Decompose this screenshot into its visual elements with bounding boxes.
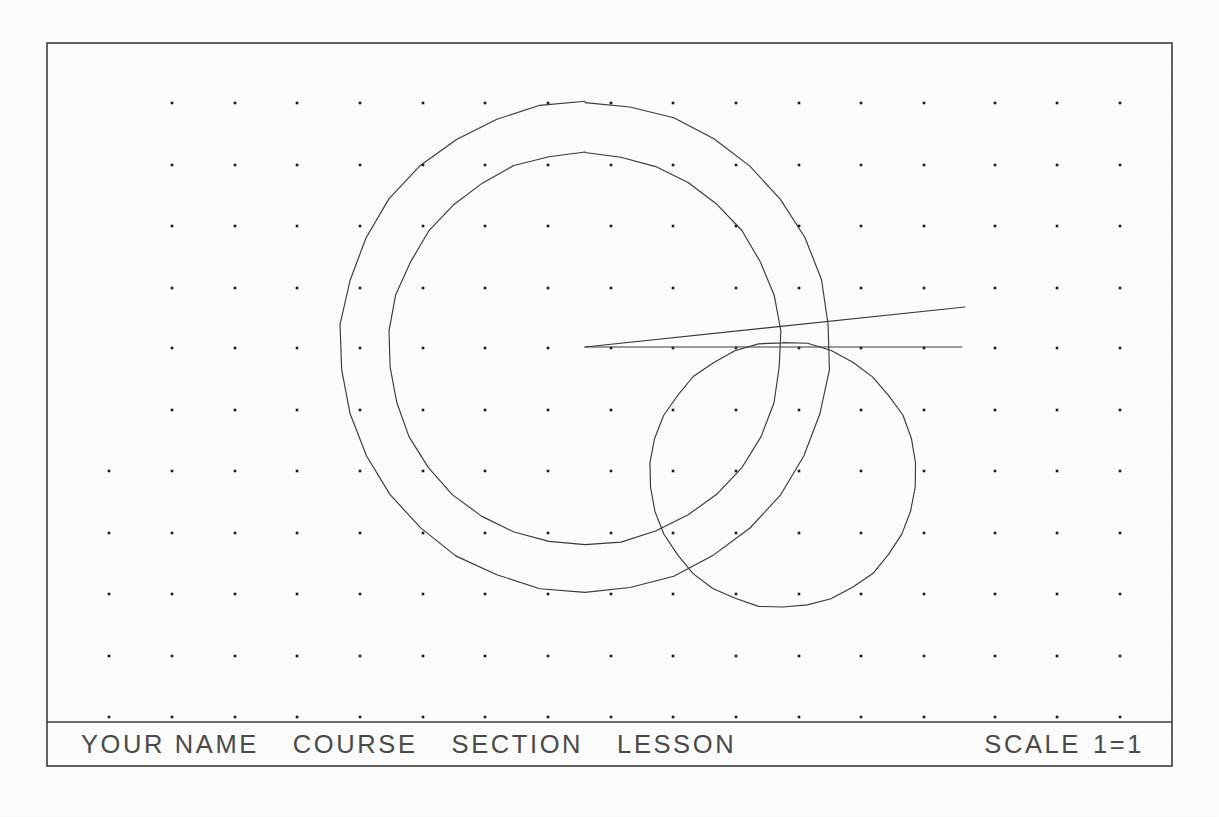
grid-dot bbox=[234, 655, 237, 658]
grid-dot bbox=[1056, 287, 1059, 290]
grid-dot bbox=[234, 225, 237, 228]
grid-dot bbox=[610, 716, 613, 719]
grid-dot bbox=[735, 164, 738, 167]
grid-dot bbox=[484, 470, 487, 473]
grid-dot bbox=[484, 164, 487, 167]
grid-dot bbox=[672, 655, 675, 658]
grid-dot bbox=[860, 470, 863, 473]
grid-dot bbox=[296, 716, 299, 719]
grid-dot bbox=[735, 287, 738, 290]
grid-dot bbox=[484, 593, 487, 596]
grid-dot bbox=[610, 470, 613, 473]
grid-dot bbox=[610, 655, 613, 658]
grid-dot bbox=[296, 532, 299, 535]
grid-dot bbox=[234, 164, 237, 167]
grid-dot bbox=[798, 287, 801, 290]
grid-dot bbox=[234, 102, 237, 105]
grid-dot bbox=[1056, 102, 1059, 105]
grid-dot bbox=[296, 102, 299, 105]
grid-dot bbox=[547, 532, 550, 535]
grid-dot bbox=[1119, 593, 1122, 596]
grid-dot bbox=[798, 532, 801, 535]
grid-dot bbox=[672, 287, 675, 290]
grid-dot bbox=[171, 470, 174, 473]
grid-dot bbox=[994, 347, 997, 350]
grid-dot bbox=[735, 409, 738, 412]
grid-dot bbox=[672, 409, 675, 412]
grid-dot bbox=[860, 287, 863, 290]
grid-dot bbox=[1056, 470, 1059, 473]
grid-dot bbox=[296, 287, 299, 290]
grid-dot bbox=[171, 716, 174, 719]
grid-dot bbox=[735, 716, 738, 719]
grid-dot bbox=[171, 102, 174, 105]
grid-dot bbox=[994, 287, 997, 290]
grid-dot bbox=[923, 164, 926, 167]
grid-dot bbox=[1119, 716, 1122, 719]
grid-dot bbox=[798, 470, 801, 473]
grid-dot bbox=[735, 593, 738, 596]
grid-dot bbox=[547, 164, 550, 167]
grid-dot bbox=[422, 409, 425, 412]
grid-dot bbox=[296, 347, 299, 350]
grid-dot bbox=[994, 225, 997, 228]
grid-dot bbox=[994, 716, 997, 719]
grid-dot bbox=[923, 225, 926, 228]
grid-dot bbox=[923, 716, 926, 719]
grid-dot bbox=[547, 102, 550, 105]
grid-dot bbox=[672, 164, 675, 167]
grid-dot bbox=[484, 716, 487, 719]
grid-dot bbox=[296, 655, 299, 658]
grid-dot bbox=[798, 655, 801, 658]
grid-dot bbox=[860, 409, 863, 412]
grid-dot bbox=[359, 593, 362, 596]
grid-dot bbox=[1056, 347, 1059, 350]
grid-dot bbox=[547, 225, 550, 228]
grid-dot bbox=[860, 164, 863, 167]
grid-dot bbox=[547, 470, 550, 473]
grid-dot bbox=[484, 225, 487, 228]
grid-dot bbox=[547, 716, 550, 719]
grid-dot bbox=[108, 532, 111, 535]
grid-dot bbox=[1056, 655, 1059, 658]
grid-dot bbox=[359, 470, 362, 473]
grid-dot bbox=[923, 470, 926, 473]
grid-dot bbox=[171, 287, 174, 290]
grid-dot bbox=[171, 164, 174, 167]
grid-dot bbox=[422, 593, 425, 596]
grid-dot bbox=[359, 655, 362, 658]
grid-dot bbox=[171, 593, 174, 596]
grid-dot bbox=[108, 655, 111, 658]
grid-dot bbox=[994, 470, 997, 473]
grid-dot bbox=[1119, 409, 1122, 412]
grid-dot bbox=[422, 470, 425, 473]
grid-dot bbox=[547, 409, 550, 412]
grid-dot bbox=[923, 655, 926, 658]
grid-dot bbox=[735, 532, 738, 535]
grid-dot bbox=[234, 593, 237, 596]
grid-dot bbox=[422, 287, 425, 290]
drawing-canvas[interactable] bbox=[0, 0, 1219, 817]
grid-dot bbox=[923, 287, 926, 290]
grid-dot bbox=[359, 532, 362, 535]
grid-dot bbox=[798, 102, 801, 105]
grid-dot bbox=[359, 164, 362, 167]
grid-dot bbox=[422, 716, 425, 719]
grid-dot bbox=[296, 470, 299, 473]
grid-dot bbox=[923, 102, 926, 105]
grid-dot bbox=[994, 655, 997, 658]
grid-dot bbox=[672, 102, 675, 105]
grid-dot bbox=[860, 655, 863, 658]
sheet-background bbox=[0, 0, 1219, 817]
grid-dot bbox=[1119, 225, 1122, 228]
grid-dot bbox=[610, 287, 613, 290]
grid-dot bbox=[484, 655, 487, 658]
grid-dot bbox=[422, 532, 425, 535]
grid-dot bbox=[108, 470, 111, 473]
grid-dot bbox=[234, 532, 237, 535]
grid-dot bbox=[1119, 655, 1122, 658]
grid-dot bbox=[422, 225, 425, 228]
grid-dot bbox=[484, 532, 487, 535]
grid-dot bbox=[1119, 347, 1122, 350]
grid-dot bbox=[923, 593, 926, 596]
